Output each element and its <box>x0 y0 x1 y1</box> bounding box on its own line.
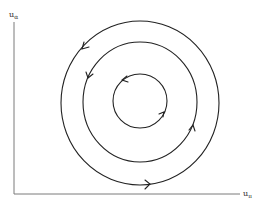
y-axis-label: uα <box>9 10 18 20</box>
outer-orbit <box>61 21 219 185</box>
middle-orbit <box>83 42 197 162</box>
inner-arrow-right-icon <box>159 112 164 117</box>
inner-orbit <box>113 74 167 128</box>
orbit-diagram: uα uıı <box>0 0 266 209</box>
x-axis-label: uıı <box>243 189 252 199</box>
axes <box>14 22 240 194</box>
